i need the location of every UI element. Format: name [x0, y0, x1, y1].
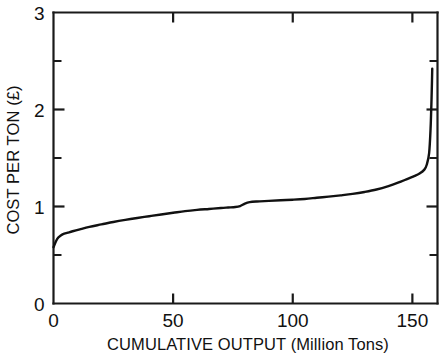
x-axis-ticks [173, 13, 412, 304]
x-axis-title: CUMULATIVE OUTPUT (Million Tons) [107, 335, 389, 353]
x-axis-tick-labels: 050100150 [48, 310, 428, 331]
x-tick-label: 100 [277, 310, 309, 331]
y-axis-tick-labels: 0123 [34, 3, 45, 315]
x-tick-label: 150 [397, 310, 429, 331]
y-axis-title: COST PER TON (£) [4, 85, 22, 234]
chart-canvas: 0123 050100150 COST PER TON (£) CUMULATI… [0, 0, 445, 360]
x-tick-label: 50 [163, 310, 184, 331]
y-tick-label: 2 [34, 100, 45, 121]
cost-per-ton-curve [54, 69, 433, 247]
chart-figure: 0123 050100150 COST PER TON (£) CUMULATI… [0, 0, 445, 360]
x-tick-label: 0 [48, 310, 59, 331]
plot-axes [54, 13, 438, 304]
y-tick-label: 3 [34, 3, 45, 24]
y-tick-label: 1 [34, 197, 45, 218]
y-tick-label: 0 [34, 294, 45, 315]
y-axis-ticks [54, 61, 438, 255]
